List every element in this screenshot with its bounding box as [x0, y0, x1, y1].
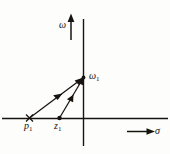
point-marker-omega1: [82, 76, 86, 80]
sigma-axis-label: σ: [155, 126, 160, 136]
omega-axis-arrow: [68, 14, 75, 41]
point-label-omega-1-base: ω: [89, 70, 96, 81]
sigma-axis-label-text: σ: [155, 125, 160, 136]
omega-axis-label-text: ω: [59, 19, 66, 30]
pole-zero-figure: ω σ ω1 p1 z1: [0, 0, 170, 154]
sigma-axis-arrow: [127, 128, 155, 135]
point-label-z-1-subscript: 1: [58, 125, 62, 133]
vector-z1-to-omega1: [60, 78, 84, 119]
point-label-p-1: p1: [24, 121, 33, 133]
point-label-omega-1: ω1: [89, 71, 100, 83]
omega-axis-label: ω: [59, 20, 66, 30]
point-label-z-1: z1: [54, 121, 61, 133]
point-label-omega-1-subscript: 1: [96, 75, 100, 83]
point-label-p-1-subscript: 1: [29, 125, 33, 133]
vector-p1-to-omega1: [30, 78, 84, 119]
